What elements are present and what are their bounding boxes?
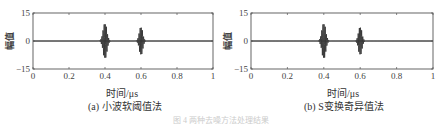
x-tick-label: 0.8 <box>391 71 403 81</box>
y-axis-label: 幅值 <box>4 32 15 50</box>
x-tick-label: 0.8 <box>171 71 183 81</box>
x-tick-label: 0 <box>249 71 254 81</box>
y-tick-label: 0 <box>244 36 249 46</box>
x-tick-label: 0.2 <box>282 71 293 81</box>
chart-b-plot: 00.20.40.60.81150−15幅值 <box>221 0 442 85</box>
chart-a-caption: (a) 小波软阈值法 <box>88 98 162 113</box>
chart-b-caption: (b) S变换奇异值法 <box>304 98 384 113</box>
x-tick-label: 1 <box>431 71 436 81</box>
chart-panel-a: 00.20.40.60.81150−15幅值 时间/μs (a) 小波软阈值法 <box>0 0 221 110</box>
chart-a-plot: 00.20.40.60.81150−15幅值 <box>0 0 221 85</box>
x-tick-label: 0.4 <box>318 71 330 81</box>
x-tick-label: 0.2 <box>63 71 74 81</box>
y-axis-label: 幅值 <box>222 32 233 50</box>
y-tick-label: 15 <box>21 8 31 18</box>
y-tick-label: −15 <box>234 64 249 74</box>
y-tick-label: −15 <box>16 64 31 74</box>
x-tick-label: 1 <box>211 71 216 81</box>
x-tick-label: 0.6 <box>355 71 367 81</box>
chart-panel-b: 00.20.40.60.81150−15幅值 时间/μs (b) S变换奇异值法 <box>221 0 442 110</box>
x-tick-label: 0 <box>31 71 36 81</box>
figure-caption: 图 4 两种去噪方法处理结果 <box>0 114 442 124</box>
y-tick-label: 15 <box>239 8 249 18</box>
x-tick-label: 0.4 <box>99 71 111 81</box>
x-tick-label: 0.6 <box>135 71 147 81</box>
y-tick-label: 0 <box>26 36 31 46</box>
